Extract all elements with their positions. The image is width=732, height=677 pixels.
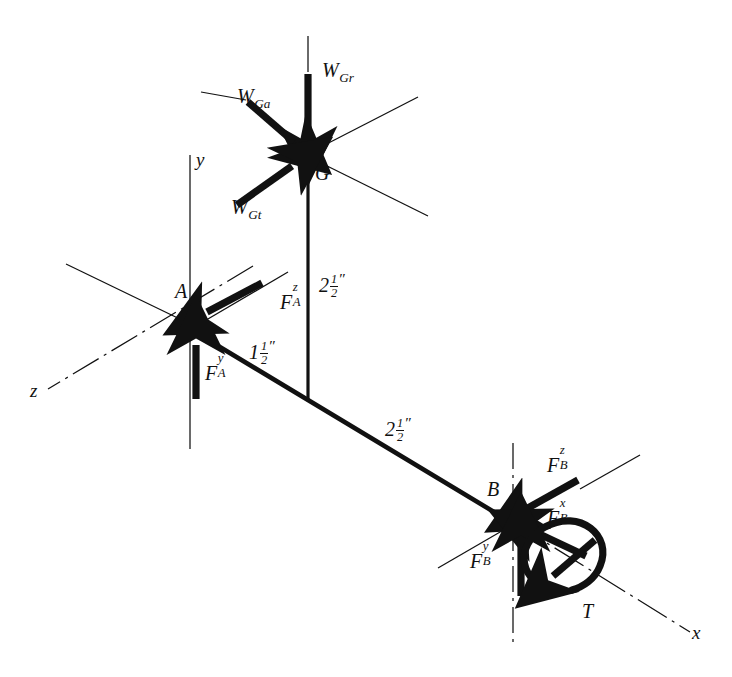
- label-dim-G-to-shaft: 2 1 2 ″: [319, 272, 345, 298]
- force-base-symbol: F: [470, 550, 482, 572]
- force-subscript: A: [218, 367, 226, 380]
- force-sup-sub-stack: z A: [292, 289, 304, 309]
- arrow-bearing-B-force-z: [528, 480, 578, 508]
- force-subscript: Gt: [248, 207, 261, 222]
- force-sup-sub-stack: x B: [559, 505, 571, 525]
- label-bearing-B-force-z: F z B: [547, 452, 572, 475]
- force-subscript: B: [560, 512, 568, 525]
- fraction: 1 2: [330, 273, 338, 299]
- axis-lines: [48, 36, 690, 645]
- whole-part: 2: [385, 419, 395, 439]
- label-torque-T: T: [582, 601, 593, 621]
- force-base-symbol: W: [231, 196, 248, 218]
- gear-guide-line-upper-right: [311, 97, 418, 152]
- mixed-number: 1 1 2 ″: [249, 339, 275, 365]
- force-subscript: Gr: [339, 70, 354, 85]
- label-gear-axial-force: WGa: [237, 86, 270, 110]
- denominator: 2: [396, 430, 404, 444]
- label-bearing-B-force-x: F x B: [547, 505, 572, 528]
- b-guide-line-upper-right: [580, 455, 640, 489]
- numerator: 1: [330, 273, 338, 286]
- diagram-canvas: [0, 0, 732, 677]
- denominator: 2: [330, 286, 338, 300]
- force-subscript: Ga: [254, 96, 270, 111]
- arrow-bearing-A-force-z: [207, 283, 262, 312]
- shaft-line-A-to-B: [185, 326, 519, 527]
- force-superscript: z: [560, 444, 565, 457]
- whole-part: 1: [249, 342, 259, 362]
- label-bearing-B-force-y: F y B: [470, 548, 495, 571]
- torque-arrow-T: [524, 521, 603, 590]
- force-sup-sub-stack: y B: [482, 548, 494, 568]
- free-body-diagram: A B G x y z WGr WGa WGt F z A F y A F z …: [0, 0, 732, 677]
- label-axis-z: z: [30, 381, 37, 400]
- gear-center-dot: [303, 148, 314, 159]
- whole-part: 2: [319, 275, 329, 295]
- denominator: 2: [260, 353, 268, 367]
- force-subscript: B: [483, 555, 491, 568]
- force-superscript: y: [218, 352, 224, 365]
- fraction: 1 2: [396, 417, 404, 443]
- force-superscript: x: [560, 497, 566, 510]
- force-base-symbol: F: [547, 507, 559, 529]
- label-gear-tangential-force: WGt: [231, 197, 261, 221]
- force-base-symbol: F: [547, 454, 559, 476]
- mixed-number: 2 1 2 ″: [319, 272, 345, 298]
- force-sup-sub-stack: y A: [217, 360, 229, 380]
- a-guide-line-upper-right: [196, 272, 288, 326]
- force-superscript: y: [483, 540, 489, 553]
- inch-mark: ″: [268, 338, 275, 354]
- numerator: 1: [260, 340, 268, 353]
- force-sup-sub-stack: z B: [559, 452, 571, 472]
- inch-mark: ″: [404, 415, 411, 431]
- force-superscript: z: [293, 281, 298, 294]
- label-bearing-A-force-y: F y A: [205, 360, 230, 383]
- label-point-B: B: [487, 479, 499, 499]
- label-gear-radial-force: WGr: [322, 60, 354, 84]
- inch-mark: ″: [338, 271, 345, 287]
- force-base-symbol: W: [237, 85, 254, 107]
- torque-arc: [524, 521, 603, 590]
- force-subscript: A: [293, 296, 301, 309]
- force-base-symbol: W: [322, 59, 339, 81]
- force-base-symbol: F: [280, 291, 292, 313]
- label-point-A: A: [175, 281, 187, 301]
- force-subscript: B: [560, 459, 568, 472]
- label-dim-gear-station-to-B: 2 1 2 ″: [385, 416, 411, 442]
- label-point-G: G: [315, 163, 329, 183]
- force-base-symbol: F: [205, 362, 217, 384]
- label-bearing-A-force-z: F z A: [280, 289, 305, 312]
- fraction: 1 2: [260, 340, 268, 366]
- numerator: 1: [396, 417, 404, 430]
- mixed-number: 2 1 2 ″: [385, 416, 411, 442]
- a-guide-line-upper-left: [66, 264, 186, 322]
- label-dim-A-to-gear-station: 1 1 2 ″: [249, 339, 275, 365]
- label-axis-x: x: [692, 623, 700, 642]
- label-axis-y: y: [196, 150, 204, 169]
